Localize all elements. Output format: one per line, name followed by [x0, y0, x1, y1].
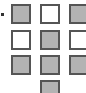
grid-cell-r1c1[interactable]	[11, 4, 31, 24]
grid-cell-r3c2[interactable]	[40, 55, 60, 75]
grid-cell-r3c3[interactable]	[69, 55, 86, 75]
grid-cell-r3c1[interactable]	[11, 55, 31, 75]
selection-marker	[1, 13, 4, 16]
grid-cell-r2c3[interactable]	[69, 30, 86, 50]
grid-cell-r4c2[interactable]	[40, 80, 60, 93]
grid-cell-r1c2[interactable]	[40, 4, 60, 24]
grid-cell-r2c2[interactable]	[40, 30, 60, 50]
grid-cell-r1c3[interactable]	[69, 4, 86, 24]
grid-cell-r2c1[interactable]	[11, 30, 31, 50]
